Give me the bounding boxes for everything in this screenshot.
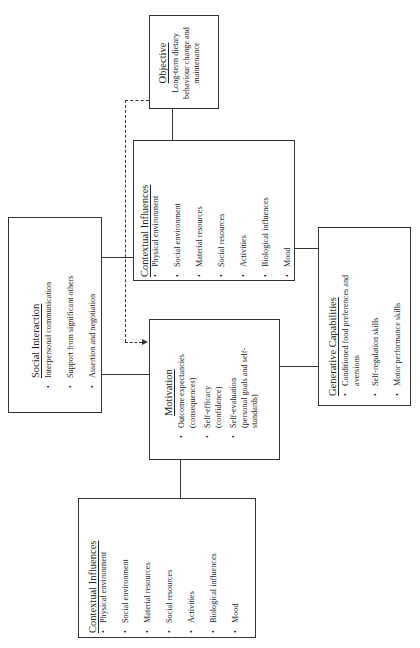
- connector-social-contextual: [101, 257, 133, 258]
- dashed-feedback-vertical: [125, 100, 126, 342]
- bullet-icon: •: [165, 623, 176, 633]
- item-text: Self-evaluation(personal goals and self-…: [229, 348, 261, 428]
- list-item: •Physical environment: [99, 503, 110, 633]
- bullet-icon: •: [261, 267, 272, 277]
- objective-line: maintenance: [192, 22, 203, 104]
- item-line: Self-efficacy: [203, 386, 212, 428]
- motivation-content: Motivation •Outcome expectancies(consequ…: [162, 328, 261, 438]
- list-item: •Support from significant others: [66, 228, 77, 388]
- connector-objective-contextual: [172, 108, 173, 140]
- generative-content: Generative Capabilities •Conditioned foo…: [326, 241, 403, 396]
- item-text: Motor performance skills: [393, 303, 404, 386]
- bullet-icon: •: [177, 428, 188, 438]
- bullet-icon: •: [231, 623, 242, 633]
- list-item: •Motor performance skills: [393, 241, 404, 396]
- contextual-influences-bottom-box: Contextual Influences •Physical environm…: [78, 498, 256, 638]
- bullet-icon: •: [217, 267, 228, 277]
- arrow-head-icon: [142, 339, 148, 345]
- list-item: •Activities: [239, 147, 250, 277]
- item-text: Mood: [231, 603, 242, 623]
- list-item: •Biological influences: [209, 503, 220, 633]
- connector-social-motivation: [101, 374, 149, 375]
- objective-box: Objective Long-term dietary behaviour ch…: [149, 15, 219, 109]
- item-text: Self-regulation skills: [371, 318, 382, 386]
- dashed-feedback-top: [125, 100, 149, 101]
- list-item: •Social resources: [217, 147, 228, 277]
- contextual-bottom-content: Contextual Influences •Physical environm…: [87, 503, 242, 633]
- motivation-title: Motivation: [162, 328, 175, 438]
- item-line: standards): [250, 394, 259, 428]
- item-text: Physical environment: [99, 552, 110, 623]
- bullet-icon: •: [173, 267, 184, 277]
- dashed-feedback-bottom: [125, 342, 142, 343]
- item-line: aversions: [352, 355, 361, 386]
- generative-title: Generative Capabilities: [326, 241, 339, 396]
- bullet-icon: •: [239, 267, 250, 277]
- item-text: Social resources: [165, 570, 176, 623]
- bullet-icon: •: [99, 623, 110, 633]
- motivation-box: Motivation •Outcome expectancies(consequ…: [149, 319, 280, 460]
- bullet-icon: •: [66, 378, 77, 388]
- item-text: Social environment: [121, 559, 132, 623]
- objective-title: Objective: [156, 22, 169, 104]
- list-item: •Material resources: [195, 147, 206, 277]
- list-item: •Mood: [231, 503, 242, 633]
- list-item: •Self-evaluation(personal goals and self…: [229, 328, 261, 438]
- bullet-icon: •: [195, 267, 206, 277]
- contextual-influences-top-box: Contextual Influences •Physical environm…: [133, 140, 295, 281]
- item-text: Support from significant others: [66, 275, 77, 378]
- generative-capabilities-box: Generative Capabilities •Conditioned foo…: [318, 227, 411, 406]
- contextual-top-content: Contextual Influences •Physical environm…: [139, 147, 294, 277]
- item-text: Conditioned food preferences andaversion…: [341, 275, 362, 386]
- bullet-icon: •: [44, 378, 55, 388]
- list-item: •Social resources: [165, 503, 176, 633]
- connector-motivation-contextual-bottom: [180, 459, 181, 498]
- item-text: Social environment: [173, 203, 184, 267]
- item-line: Self-evaluation: [229, 378, 238, 428]
- bullet-icon: •: [88, 378, 99, 388]
- social-interaction-box: Social Interaction •Interpersonal commun…: [8, 217, 102, 413]
- list-item: •Self-regulation skills: [371, 241, 382, 396]
- item-text: Activities: [187, 591, 198, 623]
- bullet-icon: •: [121, 623, 132, 633]
- item-line: (consequences): [188, 378, 197, 428]
- item-text: Biological influences: [261, 197, 272, 267]
- item-text: Self-efficacy(confidence): [203, 386, 224, 428]
- list-item: •Biological influences: [261, 147, 272, 277]
- item-text: Activities: [239, 235, 250, 267]
- list-item: •Interpersonal communication: [44, 228, 55, 388]
- list-item: •Assertion and negotiation: [88, 228, 99, 388]
- item-line: (personal goals and self-: [240, 348, 249, 428]
- connector-motivation-generative: [280, 366, 318, 367]
- bullet-icon: •: [203, 428, 214, 438]
- bullet-icon: •: [151, 267, 162, 277]
- objective-line: Long-term dietary: [171, 22, 182, 104]
- item-line: Conditioned food preferences and: [341, 275, 350, 386]
- social-title: Social Interaction: [29, 228, 42, 388]
- item-text: Material resources: [143, 562, 154, 623]
- bullet-icon: •: [209, 623, 220, 633]
- list-item: •Conditioned food preferences andaversio…: [341, 241, 362, 396]
- item-text: Social resources: [217, 214, 228, 267]
- item-text: Material resources: [195, 206, 206, 267]
- item-text: Interpersonal communication: [44, 282, 55, 378]
- item-text: Outcome expectancies(consequences): [177, 354, 198, 428]
- item-text: Physical environment: [151, 196, 162, 267]
- item-text: Biological influences: [209, 553, 220, 623]
- list-item: •Self-efficacy(confidence): [203, 328, 224, 438]
- objective-line: behaviour change and: [182, 22, 193, 104]
- item-line: Outcome expectancies: [177, 354, 186, 428]
- bullet-icon: •: [341, 386, 352, 396]
- list-item: •Physical environment: [151, 147, 162, 277]
- contextual-top-title: Contextual Influences: [139, 147, 151, 277]
- bullet-icon: •: [143, 623, 154, 633]
- list-item: •Outcome expectancies(consequences): [177, 328, 198, 438]
- bullet-icon: •: [393, 386, 404, 396]
- item-line: (confidence): [214, 387, 223, 428]
- objective-content: Objective Long-term dietary behaviour ch…: [156, 22, 203, 104]
- bullet-icon: •: [283, 267, 294, 277]
- list-item: •Material resources: [143, 503, 154, 633]
- item-text: Assertion and negotiation: [88, 294, 99, 378]
- bullet-icon: •: [229, 428, 240, 438]
- social-content: Social Interaction •Interpersonal commun…: [29, 228, 99, 388]
